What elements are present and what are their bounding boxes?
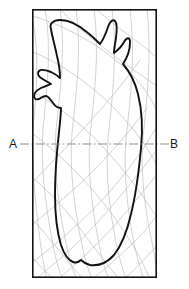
cross-section-figure: A B (0, 0, 189, 289)
figure-container: A B (0, 0, 189, 289)
figure-background (0, 0, 189, 289)
label-b: B (170, 137, 178, 151)
label-a: A (9, 137, 17, 151)
